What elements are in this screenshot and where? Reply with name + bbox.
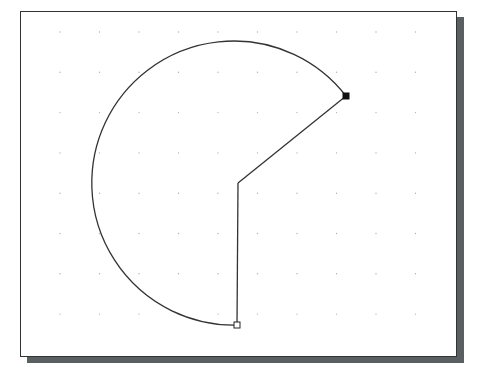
grid-dot xyxy=(217,112,218,113)
grid-dot xyxy=(138,273,139,274)
grid-dot xyxy=(178,72,179,73)
grid-dot xyxy=(99,233,100,234)
grid-dot xyxy=(138,112,139,113)
grid-dot xyxy=(375,313,376,314)
grid-dot xyxy=(415,31,416,32)
arc-curve[interactable] xyxy=(92,41,346,325)
grid-dot xyxy=(336,313,337,314)
grid-dot xyxy=(257,233,258,234)
grid-dot xyxy=(336,152,337,153)
grid-dot xyxy=(257,193,258,194)
grid-dot xyxy=(178,152,179,153)
grid-dot xyxy=(99,31,100,32)
grid-dot xyxy=(415,273,416,274)
grid-dot xyxy=(375,273,376,274)
radius-line-to-start[interactable] xyxy=(237,183,238,325)
grid-dot xyxy=(178,112,179,113)
grid-dot xyxy=(217,233,218,234)
grid-dot xyxy=(138,193,139,194)
grid-dot xyxy=(336,72,337,73)
grid-dot xyxy=(375,152,376,153)
grid-dot xyxy=(336,273,337,274)
grid-dot xyxy=(217,152,218,153)
grid-dot xyxy=(375,193,376,194)
grid-dot xyxy=(415,313,416,314)
grid-dot xyxy=(178,233,179,234)
grid-dot xyxy=(138,72,139,73)
grid-dot xyxy=(99,72,100,73)
grid-dot xyxy=(138,233,139,234)
grid-dot xyxy=(296,273,297,274)
grid-dot xyxy=(415,233,416,234)
grid-dot xyxy=(336,193,337,194)
grid-dot xyxy=(375,31,376,32)
grid-dot xyxy=(178,193,179,194)
grid-dot xyxy=(59,313,60,314)
grid-dot xyxy=(99,193,100,194)
grid-dot xyxy=(296,233,297,234)
grid-dot xyxy=(138,31,139,32)
grid-dot xyxy=(217,273,218,274)
grid-dot xyxy=(415,72,416,73)
radius-line-to-end[interactable] xyxy=(238,96,346,183)
grid-dot xyxy=(257,112,258,113)
grid-dot xyxy=(257,152,258,153)
grid-dot xyxy=(59,193,60,194)
grid-dot xyxy=(415,112,416,113)
grid-dot xyxy=(296,193,297,194)
grid-dot xyxy=(257,313,258,314)
grid-dot xyxy=(375,72,376,73)
grid-dot xyxy=(99,273,100,274)
grid-dot xyxy=(138,152,139,153)
grid-dot xyxy=(217,313,218,314)
grid-dot xyxy=(217,72,218,73)
grid-dot xyxy=(336,233,337,234)
grid-dot xyxy=(415,152,416,153)
grid-dot xyxy=(59,112,60,113)
start-point-marker[interactable] xyxy=(234,322,240,328)
grid-dot xyxy=(415,193,416,194)
grid-dot xyxy=(217,31,218,32)
grid-dot xyxy=(99,112,100,113)
grid-dot xyxy=(257,273,258,274)
grid-dot xyxy=(375,112,376,113)
grid-dot xyxy=(59,152,60,153)
grid-dot xyxy=(296,72,297,73)
grid-dot xyxy=(375,233,376,234)
grid-dot xyxy=(257,72,258,73)
end-point-marker[interactable] xyxy=(343,93,349,99)
grid-dot xyxy=(99,152,100,153)
grid-dot xyxy=(59,273,60,274)
grid-dot xyxy=(178,273,179,274)
grid-dot xyxy=(99,313,100,314)
grid-dot xyxy=(59,233,60,234)
grid-dot xyxy=(296,112,297,113)
grid-dot xyxy=(178,31,179,32)
drawing-svg xyxy=(0,0,483,378)
grid-dot xyxy=(59,72,60,73)
grid-dot xyxy=(138,313,139,314)
grid-dot xyxy=(296,31,297,32)
grid-dot xyxy=(336,31,337,32)
grid-dot xyxy=(217,193,218,194)
grid-dot xyxy=(296,152,297,153)
grid-dot xyxy=(257,31,258,32)
grid-dot xyxy=(59,31,60,32)
grid-dot xyxy=(336,112,337,113)
grid-dot xyxy=(296,313,297,314)
